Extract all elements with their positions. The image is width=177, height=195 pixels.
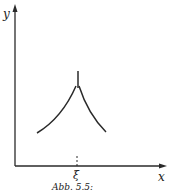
curve-right-branch [79, 86, 106, 132]
xi-label: ξ [73, 170, 79, 181]
figure-caption: Abb. 5.5: [52, 183, 93, 192]
curve-left-branch [37, 86, 76, 133]
x-axis-label: x [158, 171, 165, 183]
y-axis-arrow-icon [13, 4, 18, 12]
x-axis-arrow-icon [159, 164, 167, 169]
plot-area [0, 0, 177, 195]
figure: y x ξ Abb. 5.5: [0, 0, 177, 195]
y-axis-label: y [3, 8, 10, 20]
